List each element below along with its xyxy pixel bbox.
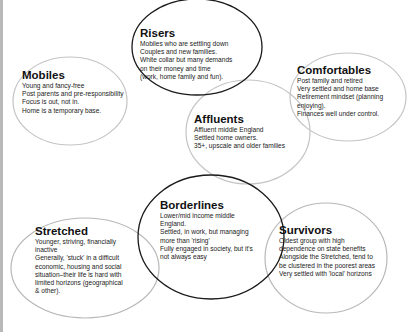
segment-line: Lower/mid income middle — [160, 212, 253, 220]
segment-line: situation–their life is hard with — [35, 271, 123, 279]
segment-borderlines: Borderlines Lower/mid income middle Engl… — [160, 199, 253, 261]
segment-line: dependence on state benefits — [279, 245, 375, 253]
segment-risers: Risers Mobiles who are settling down Cou… — [140, 27, 232, 81]
segment-survivors: Survivors Oldest group with high depende… — [279, 224, 375, 278]
segment-line: Very settled and home base — [297, 85, 383, 93]
segment-line: Younger, striving, financially — [35, 238, 123, 246]
segment-line: & other). — [35, 287, 123, 295]
segment-title: Risers — [140, 27, 232, 40]
segment-stretched: Stretched Younger, striving, financially… — [35, 225, 123, 295]
segment-title: Affluents — [194, 113, 285, 126]
segment-line: Retirement mindset (planning — [297, 93, 383, 101]
segment-mobiles: Mobiles Young and fancy-free Post parent… — [22, 69, 124, 115]
segment-line: 35+, upscale and older families — [194, 142, 285, 150]
segment-line: inactive — [35, 246, 123, 254]
segment-line: Generally, 'stuck' in a difficult — [35, 254, 123, 262]
segment-line: Post parents and pre-responsibility — [22, 90, 124, 98]
segment-line: England. — [160, 220, 253, 228]
segment-line: Couples and new families. — [140, 48, 232, 56]
segment-comfortables: Comfortables Post family and retired Ver… — [297, 64, 383, 118]
segment-line: Settled home owners. — [194, 134, 285, 142]
segment-affluents: Affluents Affluent middle England Settle… — [194, 113, 285, 151]
segment-title: Mobiles — [22, 69, 124, 82]
segment-line: Home is a temporary base. — [22, 107, 124, 115]
segment-line: not always easy — [160, 253, 253, 261]
segment-line: enjoying). — [297, 102, 383, 110]
segment-title: Comfortables — [297, 64, 383, 77]
segment-line: more than 'rising' — [160, 237, 253, 245]
segment-line: Mobiles who are settling down — [140, 40, 232, 48]
segment-line: limited horizons (geographical — [35, 279, 123, 287]
segment-line: Affluent middle England — [194, 126, 285, 134]
segment-line: Fully engaged in society, but it's — [160, 245, 253, 253]
segment-line: Alongside the Stretched, tend to — [279, 253, 375, 261]
segment-line: Young and fancy-free — [22, 82, 124, 90]
segment-line: White collar but many demands — [140, 56, 232, 64]
segment-line: Settled, in work, but managing — [160, 228, 253, 236]
segment-line: Focus is out, not in. — [22, 98, 124, 106]
segment-line: be clustered in the poorest areas — [279, 262, 375, 270]
segment-title: Borderlines — [160, 199, 253, 212]
segment-line: Very settled with 'local' horizons — [279, 270, 375, 278]
segment-line: economic, housing and social — [35, 263, 123, 271]
segment-line: Finances well under control. — [297, 110, 383, 118]
segment-line: Post family and retired — [297, 77, 383, 85]
segment-line: on their money and time — [140, 65, 232, 73]
segment-line: (work, home family and fun). — [140, 73, 232, 81]
segment-title: Survivors — [279, 224, 375, 237]
segment-title: Stretched — [35, 225, 123, 238]
segment-line: Oldest group with high — [279, 237, 375, 245]
